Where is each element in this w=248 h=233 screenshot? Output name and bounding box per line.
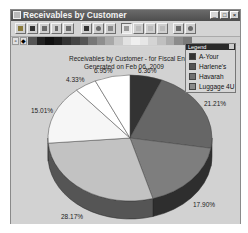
pie-label-slice-5: 15.01% [31,107,53,115]
open-button[interactable] [15,23,26,34]
minimize-button[interactable]: _ [210,11,219,19]
layout-page-button[interactable] [121,23,132,34]
legend-label: Harlene's [199,62,226,71]
layout-rows-button[interactable] [157,23,168,34]
layout-rows-icon [160,26,165,31]
pie-label-harlenes: 21.21% [204,100,226,108]
legend-label: Luggage 4U [199,82,234,91]
layout-list-button[interactable] [133,23,144,34]
legend-item: Havarah [189,73,235,81]
chart-wizard-button[interactable] [105,23,116,34]
legend-header[interactable]: Legend [186,44,235,50]
email-button[interactable] [39,23,50,34]
zoom-button[interactable] [185,23,196,34]
legend-swatch [189,83,196,90]
layout-columns-button[interactable] [145,23,156,34]
legend-close-icon[interactable] [229,44,234,49]
layout-columns-icon [148,26,153,31]
legend-swatch [189,73,196,80]
refresh-icon [96,26,101,31]
save-button[interactable] [27,23,38,34]
palette-reset-button[interactable]: ▫ [12,37,19,45]
legend-label: Havarah [199,72,224,81]
chart-area: Receivables by Customer - for Fiscal End… [11,47,240,224]
toolbar [11,21,240,37]
open-icon [18,26,23,31]
find-button[interactable] [81,23,92,34]
legend-item: Harlene's [189,63,235,71]
layout-page-icon [124,26,129,31]
pie-label-luggage-4u: 28.17% [61,213,83,221]
email-icon [42,26,47,31]
cut-button[interactable] [51,23,62,34]
maximize-button[interactable]: □ [220,11,229,19]
cut-icon [55,26,58,31]
title-bar[interactable]: Receivables by Customer _ □ × [11,10,240,21]
print-icon [66,26,71,31]
chart-wizard-icon [108,26,113,31]
print-button[interactable] [63,23,74,34]
window-title: Receivables by Customer [23,10,126,21]
palette-fill-button[interactable]: ◆ [20,37,27,45]
layout-list-icon [136,26,141,31]
refresh-button[interactable] [93,23,104,34]
save-icon [30,26,35,31]
legend-swatch [189,63,196,70]
pie-label-a-your: 6.36% [138,67,156,75]
legend-title: Legend [188,44,206,50]
pie-label-havarah: 17.90% [193,201,215,209]
zoom-icon [188,26,193,31]
pie-label-slice-7: 6.95% [94,67,112,75]
legend-item: A-Your [189,53,235,61]
legend-item: Luggage 4U [189,83,235,91]
close-button[interactable]: × [230,11,239,19]
legend-swatch [189,53,196,60]
chart-title: Receivables by Customer - for Fiscal End [69,55,189,63]
chart-properties-icon [176,26,181,31]
find-icon [84,26,89,31]
chart-properties-button[interactable] [173,23,184,34]
pie-label-slice-6: 4.33% [66,76,84,84]
app-icon [13,11,21,19]
report-window: Receivables by Customer _ □ × ▫ ◆ Receiv… [10,9,241,224]
legend-label: A-Your [199,52,219,61]
legend-panel[interactable]: Legend A-Your Harlene's Havarah Luggage … [185,43,236,93]
